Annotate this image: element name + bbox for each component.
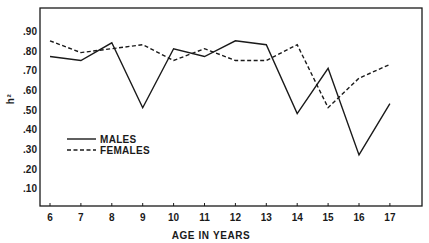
legend-label-males: MALES	[100, 134, 137, 145]
x-tick-label: 14	[292, 212, 304, 223]
x-tick-label: 10	[168, 212, 180, 223]
y-tick-label: .50	[23, 105, 37, 116]
x-tick-label: 15	[323, 212, 335, 223]
heritability-line-chart: .10.20.30.40.50.60.70.80.90 678910111213…	[0, 0, 429, 243]
x-tick-label: 11	[199, 212, 210, 223]
y-tick-label: .70	[23, 65, 37, 76]
y-tick-label: .20	[23, 164, 37, 175]
y-tick-label: .30	[23, 144, 37, 155]
x-axis-label: AGE IN YEARS	[172, 230, 251, 241]
y-tick-label: .90	[23, 26, 37, 37]
legend-label-females: FEMALES	[100, 145, 150, 156]
y-tick-label: .10	[23, 183, 37, 194]
plot-frame	[40, 8, 422, 206]
x-tick-label: 6	[47, 212, 53, 223]
y-tick-label: .60	[23, 85, 37, 96]
x-tick-label: 12	[230, 212, 242, 223]
x-tick-label: 13	[261, 212, 273, 223]
x-tick-label: 9	[140, 212, 146, 223]
y-tick-label: .80	[23, 46, 37, 57]
y-axis-ticks: .10.20.30.40.50.60.70.80.90	[23, 26, 37, 194]
x-tick-label: 7	[78, 212, 84, 223]
legend: MALES FEMALES	[67, 134, 150, 156]
x-tick-label: 17	[384, 212, 396, 223]
y-tick-label: .40	[23, 124, 37, 135]
series-line-females	[50, 41, 390, 108]
x-tick-label: 16	[353, 212, 365, 223]
y-axis-label: h²	[5, 94, 16, 105]
x-tick-label: 8	[109, 212, 115, 223]
